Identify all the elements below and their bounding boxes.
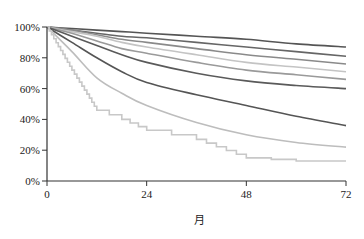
- y-tick-label: 0%: [25, 175, 40, 187]
- curves-group: [47, 27, 346, 161]
- axes-group: [47, 27, 346, 181]
- survival-curve-curve-2: [47, 27, 346, 56]
- x-tick-label: 48: [241, 188, 253, 200]
- y-ticks-group: 0%20%40%60%80%100%: [14, 21, 47, 187]
- y-tick-label: 80%: [20, 52, 40, 64]
- x-tick-label: 0: [44, 188, 50, 200]
- y-tick-label: 60%: [20, 83, 40, 95]
- y-tick-label: 40%: [20, 113, 40, 125]
- y-tick-label: 20%: [20, 144, 40, 156]
- x-tick-label: 24: [141, 188, 153, 200]
- x-axis-title: 月: [194, 214, 205, 227]
- survival-chart: 0%20%40%60%80%100% 0244872 月: [0, 0, 364, 239]
- x-ticks-group: 0244872: [44, 181, 351, 200]
- y-tick-label: 100%: [14, 21, 40, 33]
- x-tick-label: 72: [341, 188, 352, 200]
